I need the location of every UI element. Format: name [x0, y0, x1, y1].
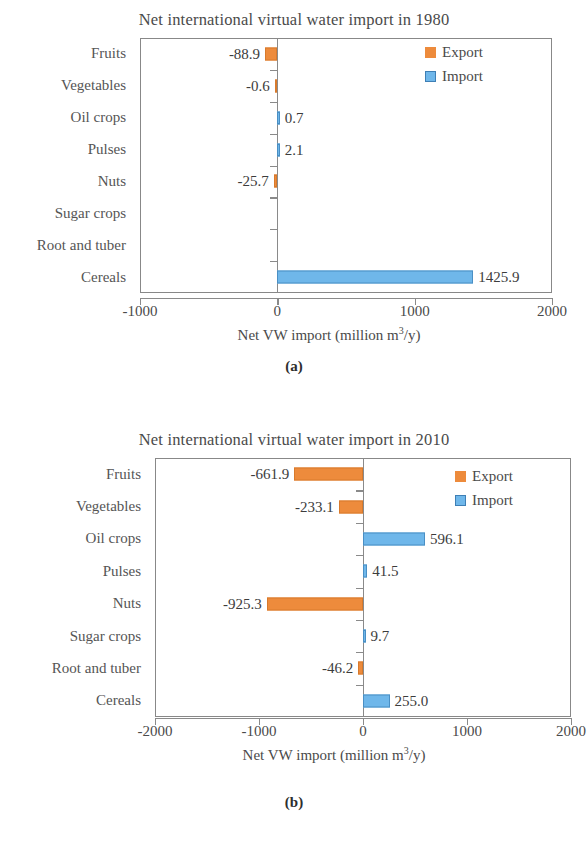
legend-item-export-a[interactable]: Export: [425, 44, 483, 61]
bar-row: 255.0: [155, 685, 571, 717]
bar-value-label: -0.6: [246, 77, 270, 94]
category-label: Cereals: [0, 261, 132, 293]
x-axis-title-suffix-a: /y): [404, 327, 421, 343]
bar-import[interactable]: [363, 565, 367, 578]
bar-value-label: 9.7: [371, 628, 390, 645]
x-axis-tick-labels-b: -2000-1000010002000: [155, 719, 571, 743]
bar-row: 596.1: [155, 523, 571, 555]
legend-a: Export Import: [425, 44, 483, 92]
category-label: Root and tuber: [0, 652, 147, 684]
x-axis-tick-labels-a: -1000010002000: [140, 299, 552, 323]
panel-caption-b: (b): [0, 764, 588, 811]
category-label: Cereals: [0, 685, 147, 717]
x-axis-title-b: Net VW import (million m3/y): [0, 743, 588, 764]
x-axis-tick-label: -1000: [242, 723, 277, 740]
bar-row: 2.1: [140, 134, 552, 166]
legend-item-export-b[interactable]: Export: [455, 468, 513, 485]
legend-label-import: Import: [472, 492, 513, 509]
bar-row: -46.2: [155, 652, 571, 684]
panel-caption-a: (a): [0, 344, 588, 375]
category-axis-labels-b: FruitsVegetablesOil cropsPulsesNutsSugar…: [0, 458, 147, 717]
bar-value-label: 0.7: [285, 109, 304, 126]
bar-import[interactable]: [277, 111, 280, 124]
legend-label-export: Export: [442, 44, 483, 61]
x-axis-title-prefix-a: Net VW import (million m: [238, 327, 399, 343]
bar-row: [140, 197, 552, 229]
legend-item-import-a[interactable]: Import: [425, 68, 483, 85]
bar-row: -88.9: [140, 38, 552, 70]
x-axis-tick-label: 2000: [537, 303, 567, 320]
plot-area-b: FruitsVegetablesOil cropsPulsesNutsSugar…: [0, 450, 588, 718]
bar-import[interactable]: [277, 271, 473, 284]
bar-value-label: 41.5: [372, 563, 398, 580]
category-label: Fruits: [0, 458, 147, 490]
bars-layer-a: -88.9-0.60.72.1-25.71425.9: [140, 38, 552, 293]
bar-row: [140, 229, 552, 261]
bar-value-label: -25.7: [238, 173, 269, 190]
legend-swatch-import-icon: [455, 495, 466, 506]
figure-panel-b: Net international virtual water import i…: [0, 412, 588, 867]
bar-row: 0.7: [140, 102, 552, 134]
legend-item-import-b[interactable]: Import: [455, 492, 513, 509]
x-axis-title-prefix-b: Net VW import (million m: [243, 747, 404, 763]
bar-value-label: -46.2: [322, 660, 353, 677]
legend-label-import: Import: [442, 68, 483, 85]
bar-import[interactable]: [277, 143, 280, 156]
bar-export[interactable]: [294, 468, 363, 481]
category-label: Sugar crops: [0, 620, 147, 652]
legend-swatch-import-icon: [425, 71, 436, 82]
bar-value-label: -233.1: [295, 498, 334, 515]
bar-value-label: 1425.9: [478, 269, 519, 286]
bar-export[interactable]: [274, 175, 278, 188]
x-axis-title-suffix-b: /y): [409, 747, 426, 763]
bar-row: -0.6: [140, 70, 552, 102]
chart-title-a: Net international virtual water import i…: [0, 0, 588, 30]
bar-row: 41.5: [155, 555, 571, 587]
chart-title-b: Net international virtual water import i…: [0, 412, 588, 450]
bar-export[interactable]: [265, 47, 277, 60]
category-label: Fruits: [0, 38, 132, 70]
bar-row: 1425.9: [140, 261, 552, 293]
bar-import[interactable]: [363, 694, 390, 707]
bar-row: -25.7: [140, 166, 552, 198]
bar-export[interactable]: [358, 662, 363, 675]
category-label: Oil crops: [0, 523, 147, 555]
category-label: Pulses: [0, 134, 132, 166]
x-axis-tick-label: 0: [359, 723, 367, 740]
x-axis-tick-label: 1000: [400, 303, 430, 320]
bar-row: -925.3: [155, 588, 571, 620]
legend-b: Export Import: [455, 468, 513, 516]
bar-value-label: -925.3: [223, 595, 262, 612]
bar-export[interactable]: [267, 597, 363, 610]
bar-value-label: -88.9: [229, 45, 260, 62]
x-axis-tick-label: -2000: [138, 723, 173, 740]
figure-panel-a: Net international virtual water import i…: [0, 0, 588, 420]
category-axis-labels-a: FruitsVegetablesOil cropsPulsesNutsSugar…: [0, 38, 132, 293]
bar-export[interactable]: [339, 500, 363, 513]
category-label: Root and tuber: [0, 229, 132, 261]
bar-value-label: -661.9: [250, 466, 289, 483]
bar-row: 9.7: [155, 620, 571, 652]
category-label: Sugar crops: [0, 197, 132, 229]
category-label: Vegetables: [0, 490, 147, 522]
x-axis-tick-label: 1000: [452, 723, 482, 740]
legend-label-export: Export: [472, 468, 513, 485]
bar-import[interactable]: [363, 532, 425, 545]
legend-swatch-export-icon: [425, 47, 436, 58]
plot-area-a: FruitsVegetablesOil cropsPulsesNutsSugar…: [0, 30, 588, 298]
x-axis-title-a: Net VW import (million m3/y): [0, 323, 588, 344]
bar-value-label: 596.1: [430, 530, 464, 547]
bar-export[interactable]: [275, 79, 278, 92]
bar-value-label: 2.1: [285, 141, 304, 158]
category-label: Pulses: [0, 555, 147, 587]
x-axis-tick-label: 0: [274, 303, 282, 320]
x-axis-tick-label: 2000: [556, 723, 586, 740]
category-label: Oil crops: [0, 102, 132, 134]
category-label: Vegetables: [0, 70, 132, 102]
category-label: Nuts: [0, 166, 132, 198]
legend-swatch-export-icon: [455, 471, 466, 482]
bar-import[interactable]: [363, 630, 366, 643]
category-label: Nuts: [0, 588, 147, 620]
x-axis-tick-label: -1000: [123, 303, 158, 320]
bar-value-label: 255.0: [395, 692, 429, 709]
